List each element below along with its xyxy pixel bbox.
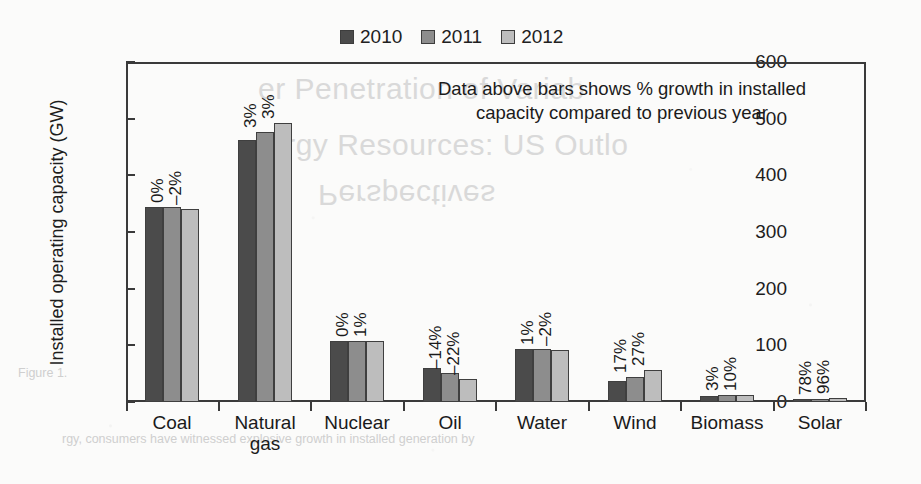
bar-oil-2012[interactable]: –22% (459, 379, 477, 402)
bar-natural-gas-2010[interactable] (238, 140, 256, 402)
chart-legend: 2010 2011 2012 (340, 27, 563, 46)
x-axis-label-oil: Oil (416, 412, 484, 433)
bar-group-solar: 78% 96% (786, 398, 854, 402)
bar-biomass-2012[interactable]: 10% (736, 395, 754, 402)
x-tick-mark-8 (865, 402, 867, 411)
bar-coal-2012[interactable]: –2% (181, 209, 199, 402)
growth-label-water-2011: 1% (519, 320, 536, 345)
bar-solar-2012[interactable]: 96% (829, 398, 847, 402)
x-axis-label-wind: Wind (601, 412, 669, 433)
bar-nuclear-2010[interactable] (330, 341, 348, 402)
bar-wind-2011[interactable]: 17% (626, 377, 644, 402)
x-tick-mark-6 (680, 402, 682, 411)
bar-coal-2010[interactable] (145, 207, 163, 403)
growth-label-nuclear-2011: 0% (334, 313, 351, 338)
x-tick-mark-1 (218, 402, 220, 411)
x-axis-label-wind-line1: Wind (601, 412, 669, 433)
growth-label-wind-2012: 27% (630, 332, 647, 366)
bar-biomass-2010[interactable] (700, 396, 718, 402)
legend-swatch-icon-2010 (340, 30, 354, 44)
x-axis-label-solar-line1: Solar (786, 412, 854, 433)
legend-swatch-icon-2011 (421, 30, 435, 44)
legend-label-2011: 2011 (441, 27, 482, 46)
x-tick-mark-5 (588, 402, 590, 411)
bar-wind-2010[interactable] (608, 381, 626, 403)
legend-entry-2011[interactable]: 2011 (421, 27, 482, 46)
bar-group-biomass: 3% 10% (693, 395, 761, 402)
bar-group-natural-gas: 3% 3% (231, 123, 299, 402)
x-axis-label-coal-line1: Coal (138, 412, 206, 433)
growth-label-water-2012: –2% (537, 312, 554, 346)
bar-chart-figure: 2010 2011 2012 Installed operating capac… (0, 0, 921, 484)
x-tick-mark-0 (126, 402, 128, 411)
legend-entry-2010[interactable]: 2010 (340, 27, 402, 46)
bar-coal-2011[interactable]: 0% (163, 207, 181, 403)
bar-water-2012[interactable]: –2% (551, 350, 569, 402)
bar-nuclear-2012[interactable]: 1% (366, 341, 384, 402)
growth-label-natural-gas-2012: 3% (260, 95, 277, 120)
bar-group-nuclear: 0% 1% (323, 341, 391, 402)
x-tick-mark-3 (403, 402, 405, 411)
bar-group-oil: –14% –22% (416, 368, 484, 402)
legend-swatch-icon-2012 (501, 30, 515, 44)
x-axis-label-water-line1: Water (504, 412, 580, 433)
legend-label-2012: 2012 (521, 27, 563, 46)
x-tick-mark-4 (495, 402, 497, 411)
x-axis-label-natural-gas: Natural gas (222, 412, 308, 454)
growth-label-nuclear-2012: 1% (352, 312, 369, 337)
growth-label-biomass-2012: 10% (722, 357, 739, 391)
x-tick-mark-7 (773, 402, 775, 411)
x-axis-label-natural-gas-line1: Natural (222, 412, 308, 433)
bar-nuclear-2011[interactable]: 0% (348, 341, 366, 402)
x-axis-label-solar: Solar (786, 412, 854, 433)
x-axis-label-water: Water (504, 412, 580, 433)
bar-group-coal: 0% –2% (138, 207, 206, 403)
bar-group-water: 1% –2% (508, 349, 576, 402)
x-axis-label-coal: Coal (138, 412, 206, 433)
x-axis-label-natural-gas-line2: gas (222, 433, 308, 454)
bar-group-wind: 17% 27% (601, 370, 669, 402)
growth-label-biomass-2011: 3% (704, 367, 721, 392)
growth-label-solar-2011: 78% (797, 360, 814, 394)
bar-water-2010[interactable] (515, 349, 533, 402)
growth-label-solar-2012: 96% (815, 360, 832, 394)
chart-annotation-line1: Data above bars shows % growth in instal… (402, 77, 842, 101)
x-tick-mark-2 (310, 402, 312, 411)
x-axis-label-biomass-line1: Biomass (685, 412, 769, 433)
legend-label-2010: 2010 (360, 27, 402, 46)
growth-label-natural-gas-2011: 3% (242, 103, 259, 128)
growth-label-oil-2011: –14% (427, 325, 444, 368)
bar-oil-2010[interactable] (423, 368, 441, 402)
bar-oil-2011[interactable]: –14% (441, 373, 459, 403)
growth-label-coal-2012: –2% (167, 171, 184, 205)
growth-label-oil-2012: –22% (445, 332, 462, 375)
chart-annotation-line2: capacity compared to previous year (402, 101, 842, 125)
growth-label-coal-2011: 0% (149, 178, 166, 203)
legend-entry-2012[interactable]: 2012 (501, 27, 563, 46)
bar-solar-2011[interactable]: 78% (811, 399, 829, 403)
x-axis-label-oil-line1: Oil (416, 412, 484, 433)
bar-biomass-2011[interactable]: 3% (718, 395, 736, 402)
bar-solar-2010[interactable] (793, 399, 811, 402)
x-axis-label-nuclear-line1: Nuclear (315, 412, 399, 433)
bar-wind-2012[interactable]: 27% (644, 370, 662, 402)
x-axis-label-nuclear: Nuclear (315, 412, 399, 433)
y-axis-title: Installed operating capacity (GW) (47, 58, 68, 408)
x-axis-label-biomass: Biomass (685, 412, 769, 433)
bar-water-2011[interactable]: 1% (533, 349, 551, 402)
bar-natural-gas-2011[interactable]: 3% (256, 132, 274, 402)
chart-annotation-note: Data above bars shows % growth in instal… (396, 74, 848, 130)
growth-label-wind-2011: 17% (612, 339, 629, 373)
bar-natural-gas-2012[interactable]: 3% (274, 123, 292, 402)
